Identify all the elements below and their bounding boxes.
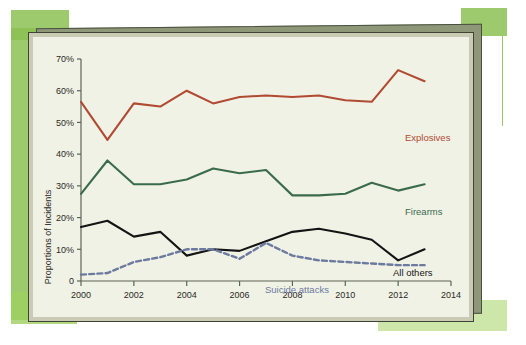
y-tick-label: 30% — [56, 181, 74, 191]
credit-divider-rule — [502, 8, 503, 126]
line-chart: 010%20%30%40%50%60%70% 20002002200420062… — [33, 37, 469, 317]
x-tick-label: 2002 — [124, 290, 144, 300]
y-tick-label: 20% — [56, 213, 74, 223]
y-tick-label: 60% — [56, 86, 74, 96]
y-tick-label: 10% — [56, 245, 74, 255]
y-tick-label: 0 — [69, 276, 74, 286]
series-label-suicide-attacks: Suicide attacks — [265, 284, 329, 295]
series-label-explosives: Explosives — [405, 132, 451, 143]
y-tick-label: 40% — [56, 149, 74, 159]
chart-canvas: 010%20%30%40%50%60%70% 20002002200420062… — [33, 37, 469, 317]
y-tick-label: 70% — [56, 54, 74, 64]
x-tick-label: 2014 — [441, 290, 461, 300]
x-tick-label: 2000 — [71, 290, 91, 300]
series-label-firearms: Firearms — [405, 206, 443, 217]
x-tick-label: 2012 — [388, 290, 408, 300]
x-tick-label: 2004 — [177, 290, 197, 300]
x-tick-label: 2010 — [335, 290, 355, 300]
x-tick-label: 2006 — [230, 290, 250, 300]
series-label-all-others: All others — [393, 267, 433, 278]
y-axis-title: Proportions of Incidents — [43, 189, 53, 284]
y-tick-label: 50% — [56, 118, 74, 128]
